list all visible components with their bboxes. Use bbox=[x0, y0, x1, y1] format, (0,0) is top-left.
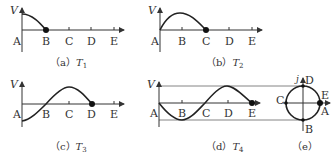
point-label-d: D bbox=[224, 107, 233, 120]
point-label-e: E bbox=[248, 35, 256, 48]
circle-label-top: D bbox=[305, 74, 314, 87]
point-label-b: B bbox=[42, 35, 50, 48]
waveform-curve bbox=[160, 13, 206, 30]
point-label-a: A bbox=[12, 35, 22, 48]
endpoint-dot bbox=[89, 101, 95, 107]
j-axis-label: j bbox=[294, 74, 299, 84]
circle-label-left: C bbox=[276, 94, 284, 107]
panel-d: V A B C D E （d）T4 bbox=[147, 78, 303, 154]
phasor-waveform-diagram: V A B C D E （a）T1 V A B C D E （b）T2 V A … bbox=[0, 0, 332, 159]
v-axis-label: V bbox=[10, 4, 19, 17]
v-axis-label: V bbox=[148, 4, 157, 17]
point-label-e: E bbox=[110, 35, 118, 48]
point-label-e: E bbox=[110, 108, 118, 121]
point-label-a: A bbox=[12, 108, 22, 121]
point-label-d: D bbox=[87, 35, 96, 48]
circle-label-right-bottom: A bbox=[320, 105, 330, 118]
endpoint-dot bbox=[249, 100, 255, 106]
v-axis-label: V bbox=[10, 78, 19, 91]
point-label-c: C bbox=[202, 107, 210, 120]
point-label-e: E bbox=[248, 107, 256, 120]
caption-d: （d）T4 bbox=[206, 141, 244, 154]
panel-a: V A B C D E （a）T1 bbox=[10, 4, 124, 70]
caption-b: （b）T2 bbox=[206, 57, 244, 70]
circle-label-bottom: B bbox=[305, 123, 313, 136]
endpoint-dot bbox=[203, 27, 209, 33]
circle-label-right-top: E bbox=[321, 89, 329, 102]
point-label-d: D bbox=[87, 108, 96, 121]
point-label-c: C bbox=[202, 35, 210, 48]
point-label-c: C bbox=[65, 35, 73, 48]
point-label-a: A bbox=[149, 107, 159, 120]
caption-a: （a）T1 bbox=[50, 57, 87, 70]
point-label-c: C bbox=[65, 108, 73, 121]
point-label-b: B bbox=[178, 107, 186, 120]
point-label-b: B bbox=[178, 35, 186, 48]
v-axis-label: V bbox=[147, 78, 156, 91]
panel-c: V A B C D E （c）T3 bbox=[10, 78, 124, 154]
panel-b: V A B C D E （b）T2 bbox=[148, 4, 262, 70]
point-label-a: A bbox=[150, 35, 160, 48]
point-label-b: B bbox=[42, 108, 50, 121]
caption-e: （e） bbox=[292, 141, 318, 152]
caption-c: （c）T3 bbox=[50, 141, 87, 154]
waveform-curve bbox=[22, 14, 46, 30]
endpoint-dot bbox=[43, 27, 49, 33]
point-label-d: D bbox=[225, 35, 234, 48]
